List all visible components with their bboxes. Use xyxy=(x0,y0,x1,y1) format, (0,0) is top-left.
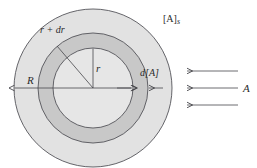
label-surface-concentration-subscript: s xyxy=(177,17,180,26)
label-d-concentration-text: d[A] xyxy=(140,67,159,78)
label-r: r xyxy=(96,62,101,74)
label-d-concentration: d[A] xyxy=(140,67,159,78)
label-A: A xyxy=(242,82,250,94)
label-r-plus-dr: r + dr xyxy=(40,24,65,35)
label-surface-concentration-bracket: [A] xyxy=(163,13,177,24)
label-R: R xyxy=(26,74,34,86)
diffusion-sphere-figure: R r r + dr d[A] [A]s A xyxy=(0,0,257,168)
label-surface-concentration: [A]s xyxy=(163,13,180,26)
concentric-sphere-svg: R r r + dr d[A] [A]s A xyxy=(0,0,257,168)
